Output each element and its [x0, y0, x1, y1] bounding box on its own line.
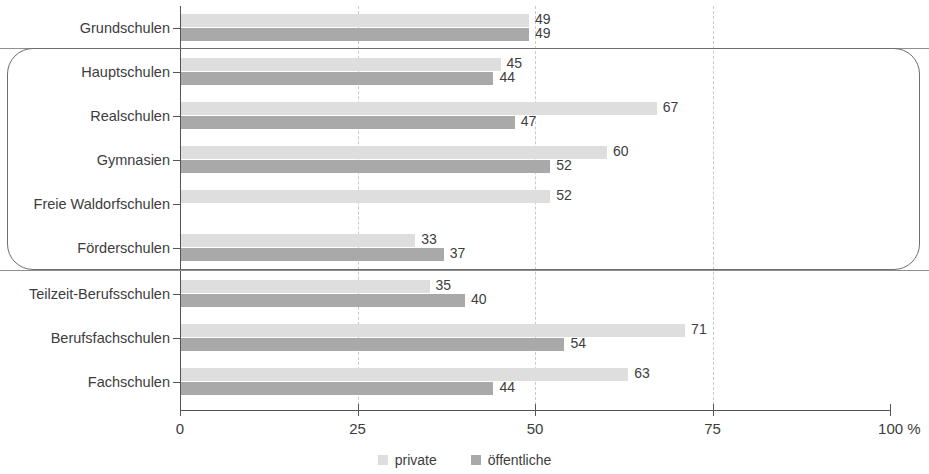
x-tick	[890, 404, 891, 416]
x-tick-label: 75	[704, 420, 721, 437]
chart-row: Freie Waldorfschulen52	[0, 182, 929, 226]
x-tick-label: 0	[176, 420, 184, 437]
bar-value-label: 60	[613, 145, 629, 158]
legend-label: private	[395, 452, 437, 468]
x-tick-label: 50	[527, 420, 544, 437]
bar-value-label: 67	[663, 101, 679, 114]
category-label: Fachschulen	[0, 360, 170, 404]
legend-label: öffentliche	[488, 452, 552, 468]
bar-öffentliche	[181, 72, 493, 85]
chart-row: Gymnasien6052	[0, 138, 929, 182]
category-tick	[173, 72, 180, 73]
bar-private	[181, 14, 529, 27]
category-tick	[173, 338, 180, 339]
bar-öffentliche	[181, 248, 444, 261]
x-tick	[180, 404, 181, 416]
bar-value-label: 47	[521, 115, 537, 128]
category-label: Hauptschulen	[0, 50, 170, 94]
bar-value-label: 37	[450, 247, 466, 260]
bar-value-label: 33	[421, 233, 437, 246]
category-label: Berufsfachschulen	[0, 316, 170, 360]
x-tick-label: 25	[349, 420, 366, 437]
chart-row: Förderschulen3337	[0, 226, 929, 270]
bar-value-label: 44	[499, 71, 515, 84]
category-label: Grundschulen	[0, 6, 170, 50]
bar-value-label: 63	[634, 367, 650, 380]
bar-value-label: 44	[499, 381, 515, 394]
category-tick	[173, 116, 180, 117]
category-tick	[173, 248, 180, 249]
bar-value-label: 52	[556, 159, 572, 172]
x-tick	[358, 404, 359, 416]
legend-swatch-icon	[471, 455, 481, 465]
category-tick	[173, 28, 180, 29]
bar-value-label: 40	[471, 293, 487, 306]
chart-row: Berufsfachschulen7154	[0, 316, 929, 360]
bar-öffentliche	[181, 116, 515, 129]
chart-legend: privateöffentliche	[0, 452, 929, 468]
bar-private	[181, 234, 415, 247]
bar-private	[181, 324, 685, 337]
bar-private	[181, 190, 550, 203]
category-label: Förderschulen	[0, 226, 170, 270]
bar-value-label: 71	[691, 323, 707, 336]
x-tick	[713, 404, 714, 416]
category-tick	[173, 294, 180, 295]
chart-row: Teilzeit-Berufsschulen3540	[0, 272, 929, 316]
category-label: Realschulen	[0, 94, 170, 138]
bar-value-label: 54	[570, 337, 586, 350]
bar-value-label: 35	[436, 279, 452, 292]
legend-item: öffentliche	[471, 452, 552, 468]
legend-item: private	[378, 452, 437, 468]
legend-swatch-icon	[378, 455, 388, 465]
bar-private	[181, 146, 607, 159]
bar-öffentliche	[181, 160, 550, 173]
chart-row: Grundschulen4949	[0, 6, 929, 50]
bar-private	[181, 58, 501, 71]
category-label: Teilzeit-Berufsschulen	[0, 272, 170, 316]
bar-öffentliche	[181, 294, 465, 307]
bar-private	[181, 368, 628, 381]
chart-row: Realschulen6747	[0, 94, 929, 138]
category-tick	[173, 382, 180, 383]
x-tick	[535, 404, 536, 416]
chart-row: Hauptschulen4544	[0, 50, 929, 94]
chart-row: Fachschulen6344	[0, 360, 929, 404]
bar-öffentliche	[181, 382, 493, 395]
category-tick	[173, 204, 180, 205]
category-label: Freie Waldorfschulen	[0, 182, 170, 226]
category-tick	[173, 160, 180, 161]
bar-private	[181, 280, 430, 293]
bar-value-label: 52	[556, 189, 572, 202]
bar-öffentliche	[181, 28, 529, 41]
horizontal-bar-chart: Grundschulen4949Hauptschulen4544Realschu…	[0, 0, 929, 474]
bar-öffentliche	[181, 338, 564, 351]
x-tick-label: 100 %	[878, 420, 921, 437]
bar-private	[181, 102, 657, 115]
separator-bottom	[0, 270, 929, 271]
bar-value-label: 49	[535, 27, 551, 40]
category-label: Gymnasien	[0, 138, 170, 182]
